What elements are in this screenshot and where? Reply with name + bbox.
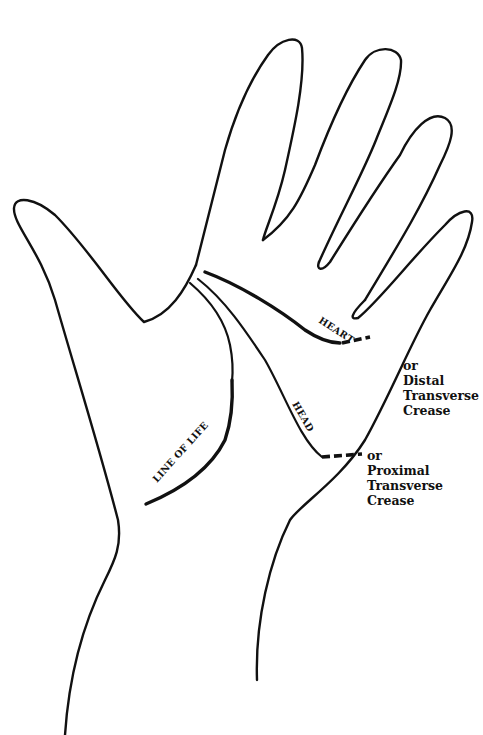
little-finger-outline bbox=[257, 211, 473, 680]
head-alt-or: or bbox=[367, 448, 382, 463]
distal-crease-caption: or Distal Transverse Crease bbox=[403, 358, 479, 418]
heart-alt-line2: Transverse bbox=[403, 388, 479, 403]
head-line bbox=[198, 279, 322, 457]
heart-line bbox=[205, 272, 340, 343]
ring-finger-outline bbox=[318, 116, 452, 300]
head-alt-line3: Crease bbox=[367, 493, 415, 508]
palm-diagram: HEART HEAD LINE OF LIFE or Distal Transv… bbox=[0, 0, 483, 735]
index-finger-outline bbox=[196, 40, 303, 265]
heart-alt-line1: Distal bbox=[403, 373, 444, 388]
heart-alt-or: or bbox=[403, 358, 418, 373]
proximal-crease-caption: or Proximal Transverse Crease bbox=[367, 448, 443, 508]
life-line-upper bbox=[190, 283, 233, 382]
middle-finger-outline bbox=[263, 49, 401, 262]
head-alt-line1: Proximal bbox=[367, 463, 430, 478]
head-alt-line2: Transverse bbox=[367, 478, 443, 493]
life-label: LINE OF LIFE bbox=[150, 419, 210, 484]
heart-alt-line3: Crease bbox=[403, 403, 451, 418]
